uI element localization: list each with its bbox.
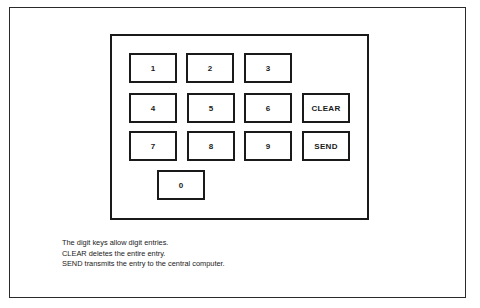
key-2[interactable]: 2 (186, 53, 234, 83)
key-7[interactable]: 7 (129, 131, 177, 161)
caption-line-send: SEND transmits the entry to the central … (62, 259, 225, 270)
key-9[interactable]: 9 (244, 131, 292, 161)
key-6[interactable]: 6 (244, 93, 292, 123)
key-4[interactable]: 4 (129, 93, 177, 123)
key-3[interactable]: 3 (244, 53, 292, 83)
key-0[interactable]: 0 (157, 170, 205, 200)
caption-line-clear: CLEAR deletes the entire entry. (62, 249, 225, 260)
send-button[interactable]: SEND (302, 131, 350, 161)
key-1[interactable]: 1 (129, 53, 177, 83)
key-8[interactable]: 8 (187, 131, 235, 161)
key-5[interactable]: 5 (187, 93, 235, 123)
caption-line-digits: The digit keys allow digit entries. (62, 238, 225, 249)
caption: The digit keys allow digit entries. CLEA… (62, 238, 225, 270)
clear-button[interactable]: CLEAR (302, 93, 350, 123)
